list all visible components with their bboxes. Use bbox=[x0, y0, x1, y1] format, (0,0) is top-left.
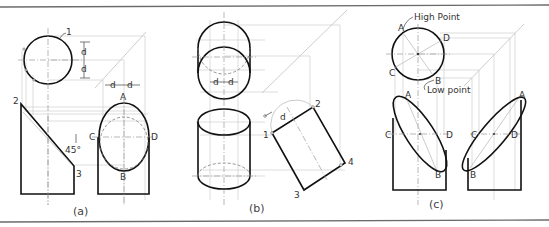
label-2-b: 2 bbox=[315, 99, 321, 109]
bottom-border-line bbox=[0, 220, 549, 222]
label-top-D: D bbox=[443, 33, 450, 43]
label-1: 1 bbox=[66, 27, 72, 37]
panel-b-semicircle-arc bbox=[271, 100, 313, 133]
label-front-right-D: D bbox=[511, 130, 518, 140]
svg-text:d: d bbox=[110, 80, 116, 90]
panel-c: High Point Low point A D C B A C D B A C… bbox=[384, 12, 533, 211]
caption-c: (c) bbox=[429, 198, 444, 211]
label-2: 2 bbox=[13, 96, 19, 106]
panel-a-side-view-outline bbox=[98, 137, 149, 194]
panel-a-projection-lines bbox=[22, 36, 148, 205]
label-3-b: 3 bbox=[294, 190, 300, 200]
label-front-right-C: C bbox=[471, 130, 477, 140]
label-d-rotated: d bbox=[280, 112, 286, 122]
panel-a-horizontal-dimension: d d bbox=[105, 80, 140, 90]
label-1-b: 1 bbox=[263, 130, 269, 140]
svg-text:d: d bbox=[81, 64, 87, 74]
label-45-degrees: 45° bbox=[65, 145, 81, 155]
label-D: D bbox=[151, 132, 158, 142]
panel-b-miter-line bbox=[262, 10, 347, 93]
label-A: A bbox=[120, 92, 127, 102]
label-C: C bbox=[89, 132, 95, 142]
high-point-leader bbox=[403, 17, 413, 29]
svg-text:d: d bbox=[213, 77, 219, 87]
svg-text:d: d bbox=[127, 80, 133, 90]
caption-a: (a) bbox=[73, 205, 88, 218]
panel-b: d d d 1 2 3 4 (b) bbox=[192, 10, 354, 215]
label-front-right-A: A bbox=[519, 90, 526, 100]
label-front-right-B: B bbox=[470, 170, 476, 180]
label-front-left-D: D bbox=[446, 130, 453, 140]
svg-text:d: d bbox=[228, 77, 234, 87]
panel-a: 1 d d d d 2 3 45° A C D B bbox=[13, 27, 158, 218]
top-border-line bbox=[0, 5, 549, 7]
label-front-left-A: A bbox=[405, 90, 412, 100]
label-low-point: Low point bbox=[427, 85, 471, 95]
label-top-C: C bbox=[389, 68, 395, 78]
svg-text:d: d bbox=[81, 47, 87, 57]
label-top-A: A bbox=[398, 23, 405, 33]
label-front-left-C: C bbox=[385, 130, 391, 140]
label-B: B bbox=[120, 172, 126, 182]
label-3: 3 bbox=[76, 169, 82, 179]
label-high-point: High Point bbox=[414, 12, 460, 22]
label-4-b: 4 bbox=[348, 157, 354, 167]
label-front-left-B: B bbox=[435, 170, 441, 180]
caption-b: (b) bbox=[249, 202, 265, 215]
technical-drawing-figure: 1 d d d d 2 3 45° A C D B bbox=[0, 0, 549, 227]
label-top-B: B bbox=[435, 76, 441, 86]
